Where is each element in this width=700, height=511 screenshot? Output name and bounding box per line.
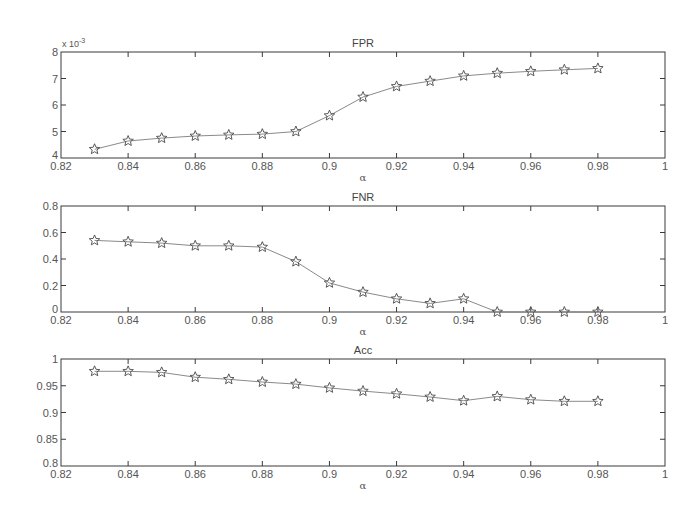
y-tick-label: 0.8: [43, 457, 58, 469]
exponent-base: x 10: [62, 39, 79, 49]
acc-title: Acc: [354, 344, 373, 356]
acc-data-point-star: [391, 388, 401, 398]
y-tick-label: 0.4: [43, 253, 58, 265]
x-tick-label: 0.9: [322, 160, 337, 172]
x-tick-label: 0.86: [185, 468, 206, 480]
y-tick-label: 5: [52, 126, 58, 138]
y-tick-label: 0: [52, 303, 58, 315]
y-tick-label: 0.85: [37, 433, 58, 445]
fpr-data-point-star: [89, 144, 99, 154]
x-tick-label: 0.9: [322, 314, 337, 326]
y-tick-label: 8: [52, 46, 58, 58]
exponent-power: -3: [79, 37, 85, 44]
x-tick-label: 0.92: [386, 314, 407, 326]
x-tick-label: 0.92: [386, 160, 407, 172]
y-tick-label: 0.9: [43, 407, 58, 419]
fnr-data-point-star: [257, 242, 267, 252]
acc-data-point-star: [89, 366, 99, 376]
x-tick-label: 0.94: [453, 468, 474, 480]
fpr-data-point-star: [458, 70, 468, 80]
fpr-data-point-star: [156, 133, 166, 143]
fnr-data-point-star: [156, 238, 166, 248]
x-tick-label: 0.84: [117, 160, 138, 172]
x-tick-label: 0.98: [587, 160, 608, 172]
x-tick-label: 0.86: [185, 314, 206, 326]
x-tick-label: 1: [662, 468, 668, 480]
acc-x-axis-label: α: [360, 480, 367, 491]
x-tick-label: 0.98: [587, 468, 608, 480]
fpr-series-line: [95, 68, 598, 149]
x-tick-label: 0.96: [520, 160, 541, 172]
y-tick-label: 0.8: [43, 200, 58, 212]
x-tick-label: 1: [662, 160, 668, 172]
acc-data-point-star: [190, 372, 200, 382]
y-tick-label: 7: [52, 73, 58, 85]
fnr-data-point-star: [324, 277, 334, 287]
acc-data-point-star: [123, 366, 133, 376]
fnr-data-point-star: [391, 293, 401, 303]
fnr-x-axis-label: α: [360, 326, 367, 337]
x-tick-label: 0.82: [50, 468, 71, 480]
fpr-x-axis-label: α: [360, 172, 367, 183]
x-tick-label: 0.98: [587, 314, 608, 326]
fpr-data-point-star: [190, 131, 200, 141]
acc-series-line: [95, 371, 598, 401]
fnr-data-point-star: [190, 240, 200, 250]
x-tick-label: 0.84: [117, 314, 138, 326]
x-tick-label: 0.9: [322, 468, 337, 480]
y-tick-label: 0.2: [43, 280, 58, 292]
x-tick-label: 0.94: [453, 314, 474, 326]
x-tick-label: 0.82: [50, 160, 71, 172]
acc-data-point-star: [559, 396, 569, 406]
fpr-y-exponent-label: x 10-3: [62, 37, 85, 49]
acc-subplot: Accα0.820.840.860.880.90.920.940.960.981…: [37, 344, 668, 491]
x-tick-label: 0.96: [520, 468, 541, 480]
x-tick-label: 0.94: [453, 160, 474, 172]
x-tick-label: 1: [662, 314, 668, 326]
acc-data-point-star: [324, 382, 334, 392]
fpr-title: FPR: [352, 37, 374, 49]
fnr-title: FNR: [352, 191, 375, 203]
fnr-data-point-star: [89, 235, 99, 245]
fpr-data-point-star: [358, 92, 368, 102]
fnr-series-line: [95, 240, 598, 312]
acc-data-point-star: [593, 396, 603, 406]
y-tick-label: 4: [52, 149, 58, 161]
fnr-subplot: FNRα0.820.840.860.880.90.920.940.960.981…: [43, 191, 668, 337]
fnr-data-point-star: [425, 298, 435, 308]
y-tick-label: 6: [52, 99, 58, 111]
y-tick-label: 1: [52, 353, 58, 365]
fpr-data-point-star: [492, 68, 502, 78]
acc-data-point-star: [156, 367, 166, 377]
y-tick-label: 0.95: [37, 380, 58, 392]
x-tick-label: 0.88: [252, 160, 273, 172]
fpr-data-point-star: [559, 64, 569, 74]
acc-data-point-star: [526, 394, 536, 404]
fnr-data-point-star: [559, 307, 569, 317]
x-tick-label: 0.88: [252, 468, 273, 480]
x-tick-label: 0.86: [185, 160, 206, 172]
acc-data-point-star: [257, 377, 267, 387]
y-tick-label: 0.6: [43, 227, 58, 239]
acc-axes-frame: [61, 359, 665, 466]
x-tick-label: 0.92: [386, 468, 407, 480]
fpr-subplot: FPRαx 10-30.820.840.860.880.90.920.940.9…: [50, 37, 668, 183]
fnr-data-point-star: [458, 293, 468, 303]
x-tick-label: 0.88: [252, 314, 273, 326]
acc-data-point-star: [358, 386, 368, 396]
acc-data-point-star: [425, 391, 435, 401]
x-tick-label: 0.84: [117, 468, 138, 480]
fnr-axes-frame: [61, 206, 665, 312]
x-tick-label: 0.96: [520, 314, 541, 326]
fnr-data-point-star: [224, 240, 234, 250]
fnr-data-point-star: [123, 236, 133, 246]
figure: FPRαx 10-30.820.840.860.880.90.920.940.9…: [0, 0, 700, 511]
x-tick-label: 0.82: [50, 314, 71, 326]
fpr-axes-frame: [61, 52, 665, 158]
fpr-data-point-star: [593, 63, 603, 73]
